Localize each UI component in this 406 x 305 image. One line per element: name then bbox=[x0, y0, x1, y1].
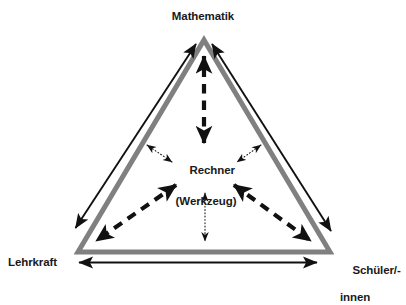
node-label-rechner-line2: (Werkzeug) bbox=[163, 195, 249, 209]
node-label-schueler-line1: Schüler/- bbox=[352, 264, 400, 276]
node-label-mathematik: Mathematik bbox=[0, 10, 406, 24]
node-label-rechner-line1: Rechner bbox=[190, 164, 235, 176]
node-label-schueler: Schüler/- innen bbox=[340, 250, 401, 305]
node-label-rechner: Rechner (Werkzeug) bbox=[163, 150, 249, 235]
node-label-lehrkraft: Lehrkraft bbox=[8, 256, 57, 270]
node-label-schueler-line2: innen bbox=[340, 291, 401, 305]
